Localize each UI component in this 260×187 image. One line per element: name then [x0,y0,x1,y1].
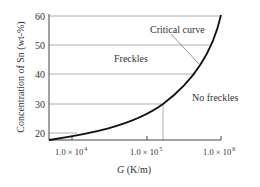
y-tick-labels: 60 50 40 30 20 [35,11,45,139]
y-tick-50: 50 [35,40,45,51]
y-tick-30: 30 [35,99,45,110]
x-tick-1e6: 1.0 × 106 [203,146,235,157]
x-axis-label: G (K/m) [117,164,151,176]
y-tick-20: 20 [35,128,45,139]
critical-curve-label: Critical curve [150,24,205,35]
y-tick-40: 40 [35,69,45,80]
no-freckles-label: No freckles [192,92,238,103]
freckles-label: Freckles [114,53,148,64]
annotation-pointer [171,34,199,64]
x-tick-labels: 1.0 × 104 1.0 × 105 1.0 × 106 [55,146,235,157]
x-tick-1e5: 1.0 × 105 [130,146,162,157]
y-tick-60: 60 [35,11,45,22]
y-axis-label: Concentration of Sn (wt-%) [15,21,27,132]
chart: 60 50 40 30 20 1.0 × 104 1.0 × 105 1.0 ×… [0,0,260,187]
x-tick-1e4: 1.0 × 104 [55,146,87,157]
